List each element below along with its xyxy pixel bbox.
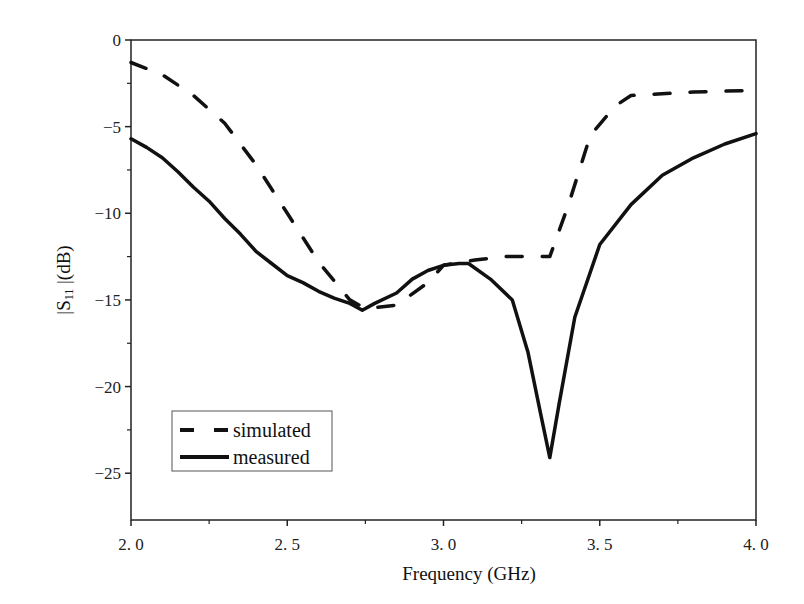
series-measured-line <box>131 134 756 458</box>
x-tick-label: 3. 5 <box>587 535 613 554</box>
legend-label-measured: measured <box>233 446 310 468</box>
y-tick-label: −10 <box>94 204 121 223</box>
y-axis-title: |S11 |(dB) <box>53 245 76 314</box>
s11-chart: 2. 02. 53. 03. 54. 00−5−10−15−20−25 Freq… <box>0 0 804 604</box>
x-tick-label: 3. 0 <box>431 535 457 554</box>
y-tick-label: −25 <box>94 464 121 483</box>
x-tick-label: 2. 5 <box>275 535 301 554</box>
x-tick-label: 2. 0 <box>118 535 144 554</box>
y-axis-title-subscript: 11 <box>62 289 76 301</box>
y-axis-title-main: |S <box>53 300 74 314</box>
legend: simulated measured <box>172 411 332 471</box>
y-tick-label: 0 <box>113 31 122 50</box>
y-tick-label: −20 <box>94 378 121 397</box>
legend-label-simulated: simulated <box>233 419 311 441</box>
y-tick-label: −5 <box>103 118 121 137</box>
axis-ticks: 2. 02. 53. 03. 54. 00−5−10−15−20−25 <box>94 31 768 554</box>
series-layer <box>131 63 756 458</box>
x-tick-label: 4. 0 <box>743 535 769 554</box>
y-tick-label: −15 <box>94 291 121 310</box>
x-axis-title: Frequency (GHz) <box>402 563 535 585</box>
series-simulated-line <box>131 63 756 309</box>
y-axis-title-unit: |(dB) <box>53 245 75 288</box>
